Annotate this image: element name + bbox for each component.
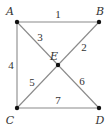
vertex-b-dot	[97, 20, 101, 24]
edge-labels-group: 1234567	[8, 8, 87, 106]
edge-weight-label: 5	[29, 76, 35, 88]
edge-weight-label: 7	[55, 94, 61, 106]
vertex-e-label: E	[49, 50, 58, 63]
edge-be	[58, 22, 99, 65]
vertex-a-dot	[15, 20, 19, 24]
vertex-b-label: B	[95, 5, 104, 18]
vertex-d-label: D	[95, 114, 105, 127]
graph-diagram: 1234567 ABCDE	[0, 0, 111, 136]
vertex-c-label: C	[6, 114, 15, 127]
edge-weight-label: 3	[37, 31, 43, 43]
vertex-labels-group: ABCDE	[5, 5, 105, 127]
edge-weight-label: 2	[81, 41, 87, 53]
vertex-a-label: A	[5, 5, 14, 18]
edge-weight-label: 1	[55, 8, 61, 20]
vertex-d-dot	[97, 106, 101, 110]
graph-svg: 1234567 ABCDE	[0, 0, 111, 136]
vertex-e-dot	[56, 63, 60, 67]
vertex-c-dot	[15, 106, 19, 110]
edge-ce	[17, 65, 58, 108]
edge-weight-label: 6	[79, 75, 85, 87]
edge-weight-label: 4	[8, 59, 14, 71]
